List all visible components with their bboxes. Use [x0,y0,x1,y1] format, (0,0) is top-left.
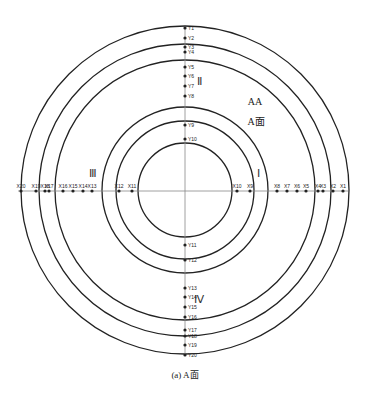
annotation-label: AA [248,96,263,107]
point-y18: Y18 [183,333,197,339]
point-y16: Y16 [183,314,197,320]
point-dot [43,189,46,192]
point-y12: Y12 [183,257,197,263]
point-y10: Y10 [183,136,197,142]
point-dot [235,189,238,192]
point-label: X8 [274,183,280,189]
point-label: X15 [69,183,78,189]
point-dot [183,343,186,346]
point-label: X13 [88,183,97,189]
point-dot [331,189,334,192]
point-label: Y4 [188,49,194,55]
point-dot [47,189,50,192]
point-label: Y13 [188,285,197,291]
point-dot [248,189,251,192]
point-dot [183,50,186,53]
point-label: X14 [79,183,88,189]
quadrant-label: Ⅲ [89,167,97,179]
point-label: X11 [128,183,137,189]
point-dot [90,189,93,192]
point-label: X2 [330,183,336,189]
point-dot [183,334,186,337]
point-y19: Y19 [183,342,197,348]
point-dot [117,189,120,192]
point-y11: Y11 [183,242,196,248]
point-dot [321,189,324,192]
point-dot [183,137,186,140]
point-label: Y10 [188,136,197,142]
quadrant-label: Ⅰ [257,167,260,179]
point-dot [183,123,186,126]
point-dot [183,353,186,356]
point-dot [183,74,186,77]
point-dot [183,84,186,87]
point-label: Y8 [188,93,194,99]
point-y13: Y13 [183,285,197,291]
point-dot [285,189,288,192]
point-dot [183,315,186,318]
point-label: X6 [294,183,300,189]
point-label: Y16 [188,314,197,320]
quadrant-label: Ⅳ [194,293,205,305]
point-label: X16 [59,183,68,189]
point-label: X18 [41,183,50,189]
point-dot [34,189,37,192]
annotations: AAA面 [247,96,264,127]
point-dot [183,26,186,29]
figure-caption: (a) A面 [171,370,198,380]
point-dot [316,189,319,192]
point-label: Y2 [188,35,194,41]
point-dot [183,295,186,298]
point-label: X4 [315,183,321,189]
point-label: Y12 [188,257,197,263]
point-label: Y6 [188,73,194,79]
point-dot [71,189,74,192]
point-dot [183,243,186,246]
point-dot [183,65,186,68]
point-y20: Y20 [183,352,197,358]
point-dot [183,258,186,261]
point-label: Y1 [188,25,194,31]
point-dot [295,189,298,192]
point-dot [61,189,64,192]
point-label: X7 [284,183,290,189]
point-dot [183,305,186,308]
point-label: Y11 [188,242,197,248]
ring-measurement-diagram: Y1Y2Y3Y4Y5Y6Y7Y8Y9Y10Y11Y12Y13Y14Y15Y16Y… [0,0,365,400]
point-dot [183,36,186,39]
point-label: Y18 [188,333,197,339]
point-label: Y7 [188,83,194,89]
point-label: X5 [303,183,309,189]
point-label: X10 [233,183,242,189]
point-dot [341,189,344,192]
point-dot [81,189,84,192]
annotation-label: A面 [247,116,264,127]
point-dot [183,328,186,331]
point-dot [183,45,186,48]
point-label: Y9 [188,122,194,128]
point-label: Y20 [188,352,197,358]
point-dot [19,189,22,192]
point-label: Y19 [188,342,197,348]
point-label: X19 [32,183,41,189]
point-dot [304,189,307,192]
quadrant-labels: ⅠⅡⅢⅣ [89,75,260,305]
point-label: Y5 [188,64,194,70]
point-label: X12 [115,183,124,189]
point-dot [183,94,186,97]
y-measurement-points: Y1Y2Y3Y4Y5Y6Y7Y8Y9Y10Y11Y12Y13Y14Y15Y16Y… [183,25,197,358]
point-dot [183,286,186,289]
point-dot [130,189,133,192]
point-dot [275,189,278,192]
point-label: X1 [340,183,346,189]
point-label: X9 [247,183,253,189]
quadrant-label: Ⅱ [197,75,202,87]
point-label: X20 [17,183,26,189]
